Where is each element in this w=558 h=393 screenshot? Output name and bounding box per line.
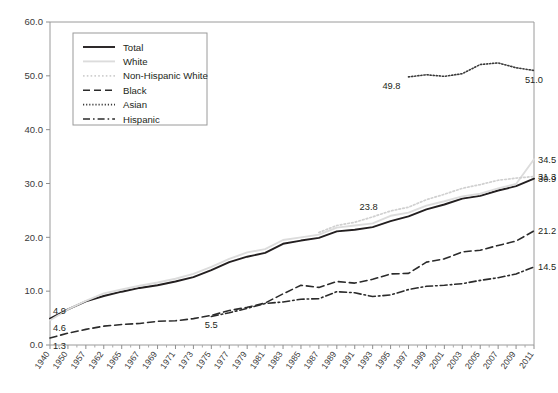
chart-container: 0.010.020.030.040.050.060.01940195019571… <box>0 0 558 393</box>
y-axis-tick-label: 20.0 <box>25 232 44 243</box>
x-axis-tick-label: 1987 <box>301 349 320 371</box>
legend-label-white: White <box>123 56 148 67</box>
data-label-49-8: 49.8 <box>382 81 400 91</box>
y-axis-tick-label: 60.0 <box>25 16 44 27</box>
data-label-51-0: 51.0 <box>525 75 543 85</box>
data-label-30-9: 30.9 <box>538 174 556 184</box>
y-axis-tick-label: 30.0 <box>25 178 44 189</box>
data-label-14-5: 14.5 <box>538 262 556 272</box>
series-line-asian <box>409 63 534 77</box>
x-axis-tick-label: 1950 <box>50 349 69 371</box>
data-label-4-9: 4.9 <box>53 306 66 316</box>
legend-label-hispanic: Hispanic <box>123 114 160 125</box>
x-axis-tick-label: 1965 <box>104 349 123 371</box>
x-axis-tick-label: 1979 <box>230 349 249 371</box>
x-axis-tick-label: 1995 <box>373 349 392 371</box>
data-label-23-8: 23.8 <box>360 202 378 212</box>
line-chart: 0.010.020.030.040.050.060.01940195019571… <box>0 0 558 393</box>
data-label-1-3: 1.3 <box>53 341 66 351</box>
x-axis-tick-label: 2009 <box>499 349 518 371</box>
y-axis-tick-label: 50.0 <box>25 70 44 81</box>
x-axis-tick-label: 1985 <box>283 349 302 371</box>
legend-label-non-hispanic-white: Non-Hispanic White <box>123 70 208 81</box>
data-label-5-5: 5.5 <box>205 320 218 330</box>
series-line-hispanic <box>211 267 534 317</box>
x-axis-tick-label: 1983 <box>266 349 285 371</box>
legend-label-asian: Asian <box>123 99 147 110</box>
x-axis-tick-label: 1977 <box>212 349 231 371</box>
data-label-34-5: 34.5 <box>538 155 556 165</box>
x-axis-tick-label: 1989 <box>319 349 338 371</box>
x-axis-tick-label: 1973 <box>176 349 195 371</box>
x-axis-tick-label: 1991 <box>337 349 356 371</box>
y-axis-tick-label: 40.0 <box>25 124 44 135</box>
legend-label-total: Total <box>123 42 143 53</box>
x-axis-tick-label: 1967 <box>122 349 141 371</box>
x-axis-tick-label: 1999 <box>409 349 428 371</box>
x-axis-tick-label: 2011 <box>517 349 536 370</box>
x-axis-tick-label: 1997 <box>391 349 410 371</box>
x-axis-tick-label: 2005 <box>463 349 482 371</box>
x-axis-tick-label: 2001 <box>427 349 446 371</box>
legend-label-black: Black <box>123 85 147 96</box>
x-axis-tick-label: 1975 <box>194 349 213 371</box>
y-axis-tick-label: 0.0 <box>30 339 43 350</box>
x-axis-tick-label: 1969 <box>140 349 159 371</box>
x-axis-tick-label: 2007 <box>481 349 500 371</box>
data-label-21-2: 21.2 <box>538 226 556 236</box>
y-axis-tick-label: 10.0 <box>25 285 44 296</box>
x-axis-tick-label: 1962 <box>86 349 105 371</box>
x-axis-tick-label: 1981 <box>248 349 267 371</box>
series-line-white <box>50 159 534 320</box>
x-axis-tick-label: 2003 <box>445 349 464 371</box>
x-axis-tick-label: 1940 <box>32 349 51 371</box>
series-line-total <box>50 179 534 319</box>
series-line-non-hispanic-white <box>319 177 534 233</box>
x-axis-tick-label: 1993 <box>355 349 374 371</box>
x-axis-tick-label: 1971 <box>158 349 177 371</box>
x-axis-tick-label: 1957 <box>68 349 87 371</box>
data-label-4-6: 4.6 <box>53 323 66 333</box>
